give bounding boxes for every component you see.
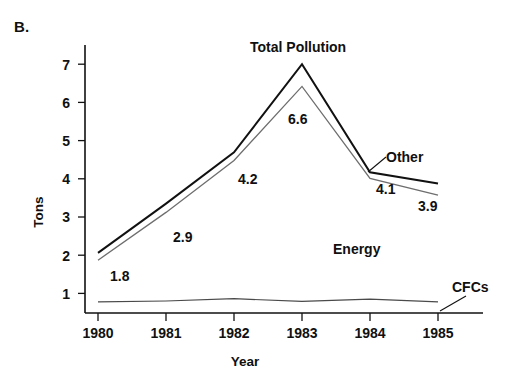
x-axis-ticks <box>98 313 438 321</box>
figure-panel-b: B. 7 6 5 4 3 2 1 <box>0 0 514 382</box>
x-tick-label-1984: 1984 <box>354 325 385 341</box>
x-tick-label-1983: 1983 <box>286 325 317 341</box>
cfcs-label: CFCs <box>452 279 489 295</box>
x-axis-title: Year <box>231 354 260 369</box>
line-chart-svg: 7 6 5 4 3 2 1 1980 1981 1982 1983 1984 1… <box>0 0 514 382</box>
x-tick-label-1981: 1981 <box>150 325 181 341</box>
y-tick-label-7: 7 <box>62 57 70 73</box>
total-pollution-label: Total Pollution <box>250 39 346 55</box>
y-tick-label-2: 2 <box>62 248 70 264</box>
value-label-1980: 1.8 <box>110 268 130 284</box>
y-axis-title: Tons <box>31 196 46 227</box>
value-label-1985: 3.9 <box>418 198 438 214</box>
value-label-1983: 6.6 <box>288 111 308 127</box>
x-axis-tick-labels: 1980 1981 1982 1983 1984 1985 <box>82 325 453 341</box>
y-tick-label-1: 1 <box>62 286 70 302</box>
x-tick-label-1980: 1980 <box>82 325 113 341</box>
y-tick-label-5: 5 <box>62 133 70 149</box>
y-tick-label-3: 3 <box>62 209 70 225</box>
series-line-energy <box>98 86 438 260</box>
series-annotations: Total Pollution Other Energy CFCs <box>250 39 489 295</box>
series-line-cfcs <box>98 299 438 302</box>
value-label-1984: 4.1 <box>376 181 396 197</box>
value-label-1981: 2.9 <box>173 229 193 245</box>
leader-line-cfcs <box>440 296 466 311</box>
x-tick-label-1982: 1982 <box>218 325 249 341</box>
energy-label: Energy <box>333 241 381 257</box>
value-label-1982: 4.2 <box>238 171 258 187</box>
axes <box>85 45 483 313</box>
y-tick-label-6: 6 <box>62 95 70 111</box>
y-axis-ticks <box>78 64 85 293</box>
leader-line-other <box>368 157 386 172</box>
y-tick-label-4: 4 <box>62 171 70 187</box>
y-axis-tick-labels: 7 6 5 4 3 2 1 <box>62 57 70 302</box>
point-value-labels: 1.8 2.9 4.2 6.6 4.1 3.9 <box>110 111 438 284</box>
other-label: Other <box>386 149 424 165</box>
x-tick-label-1985: 1985 <box>422 325 453 341</box>
